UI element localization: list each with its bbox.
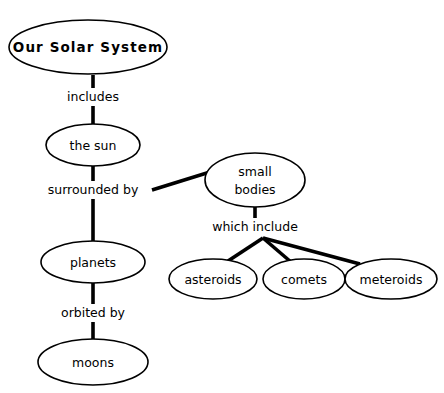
node-solar-system-label: Our Solar System xyxy=(13,39,163,55)
link-label-orbited-by: orbited by xyxy=(61,305,126,320)
connector-which-include-to-asteroids xyxy=(228,238,263,261)
node-the-sun[interactable]: the sun xyxy=(46,124,140,166)
link-label-which-include: which include xyxy=(212,219,298,234)
node-asteroids-label: asteroids xyxy=(184,272,241,287)
node-comets-label: comets xyxy=(281,272,327,287)
concept-map-diagram: Our Solar System the sun planets moons s… xyxy=(0,0,444,393)
node-moons-label: moons xyxy=(72,355,114,370)
node-small-bodies[interactable]: small bodies xyxy=(205,153,305,207)
node-small-bodies-ellipse xyxy=(205,153,305,207)
node-planets-label: planets xyxy=(70,255,116,270)
connector-surrounded-by-to-small-bodies xyxy=(152,172,210,190)
node-small-bodies-label-line2: bodies xyxy=(234,182,275,197)
node-solar-system[interactable]: Our Solar System xyxy=(9,20,167,74)
node-comets[interactable]: comets xyxy=(263,259,345,299)
node-moons[interactable]: moons xyxy=(38,339,148,385)
node-small-bodies-label-line1: small xyxy=(238,164,271,179)
link-label-includes: includes xyxy=(67,89,119,104)
connector-group xyxy=(93,75,360,339)
node-planets[interactable]: planets xyxy=(41,241,145,283)
concept-map-canvas: Our Solar System the sun planets moons s… xyxy=(0,0,444,393)
node-meteroids[interactable]: meteroids xyxy=(345,259,437,299)
node-meteroids-label: meteroids xyxy=(360,272,423,287)
node-the-sun-label: the sun xyxy=(70,138,117,153)
link-label-surrounded-by: surrounded by xyxy=(48,182,139,197)
node-asteroids[interactable]: asteroids xyxy=(169,259,257,299)
